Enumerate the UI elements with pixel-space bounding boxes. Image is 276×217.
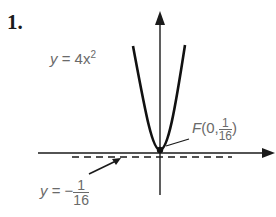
- focus-name: F: [192, 119, 201, 136]
- eq-lhs: y: [50, 50, 58, 67]
- focus-label: F(0,116): [192, 117, 237, 142]
- parabola-equation-label: y = 4x2: [50, 49, 96, 67]
- eq-exponent: 2: [90, 49, 96, 60]
- x-axis-arrow-icon: [262, 148, 275, 158]
- parabola-diagram: 1. y = 4x2 F(0,116) y = −116: [0, 0, 276, 217]
- problem-number: 1.: [7, 10, 23, 35]
- directrix-leader-line: [89, 160, 118, 174]
- directrix-numerator: 1: [73, 178, 89, 193]
- focus-point: [157, 147, 163, 153]
- eq-mid: = 4: [58, 50, 83, 67]
- y-axis-arrow-icon: [155, 11, 165, 25]
- directrix-denominator: 16: [73, 193, 89, 207]
- directrix-fraction: 116: [73, 178, 89, 207]
- directrix-label: y = −116: [40, 178, 89, 207]
- focus-leader-line: [166, 139, 189, 146]
- focus-denominator: 16: [219, 130, 232, 142]
- directrix-eq: = −: [48, 182, 74, 199]
- focus-close: ): [232, 119, 237, 136]
- parabola-curve: [133, 45, 185, 150]
- focus-open: (0,: [201, 119, 219, 136]
- directrix-lhs: y: [40, 182, 48, 199]
- focus-fraction: 116: [219, 117, 232, 142]
